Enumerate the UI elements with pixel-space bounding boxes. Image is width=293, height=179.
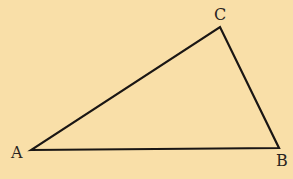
triangle-abc [31, 27, 279, 150]
vertex-label-c: C [214, 5, 226, 24]
vertex-label-a: A [10, 143, 23, 162]
diagram-canvas: A B C [0, 0, 293, 179]
vertex-label-b: B [276, 151, 288, 170]
triangle-figure: A B C [0, 0, 293, 179]
